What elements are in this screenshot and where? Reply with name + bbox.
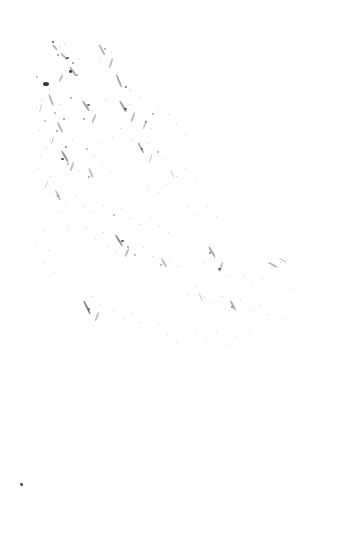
ink-speck [236, 336, 237, 337]
ink-speck [110, 171, 111, 172]
ink-speck [99, 304, 100, 305]
ink-speck [68, 226, 69, 227]
ink-speck [106, 300, 107, 301]
ink-speck [105, 99, 106, 100]
ink-speck [115, 252, 116, 253]
ink-speck [78, 59, 79, 60]
ink-stroke-fragment [268, 262, 278, 268]
ink-speck [41, 100, 42, 101]
ink-speck [150, 217, 151, 218]
ink-speck [69, 70, 72, 73]
ink-stroke-fragment [82, 100, 90, 111]
ink-speck [56, 130, 58, 132]
ink-speck [125, 86, 127, 88]
ink-speck [50, 220, 51, 221]
ink-speck [160, 264, 162, 266]
residual-ink-layer [0, 0, 353, 541]
ink-stroke-fragment [124, 248, 129, 257]
ink-speck [216, 216, 217, 217]
ink-stroke-fragment [279, 257, 287, 262]
ink-speck [121, 208, 122, 209]
ink-speck [176, 176, 177, 177]
ink-speck [310, 286, 311, 287]
ink-speck [65, 146, 67, 148]
ink-stroke-fragment [88, 168, 93, 178]
ink-speck [88, 308, 90, 310]
ink-stroke-fragment [115, 74, 122, 88]
ink-speck [206, 340, 207, 341]
ink-speck [70, 97, 72, 99]
ink-speck [52, 41, 54, 43]
ink-speck [92, 110, 93, 111]
ink-stroke-fragment [83, 300, 91, 314]
ink-stroke-fragment [94, 312, 99, 321]
ink-speck [157, 151, 159, 153]
ink-speck [76, 74, 78, 76]
ink-speck [67, 163, 69, 165]
ink-speck [64, 43, 65, 44]
ink-speck [218, 268, 221, 270]
ink-speck [159, 226, 160, 227]
ink-speck [168, 232, 169, 233]
ink-speck [78, 170, 79, 171]
ink-stroke-fragment [143, 120, 147, 129]
ink-speck [72, 139, 73, 140]
ink-speck [44, 230, 45, 231]
ink-speck [127, 246, 129, 248]
ink-speck [207, 206, 208, 207]
ink-speck [49, 141, 50, 142]
ink-speck [93, 212, 94, 213]
ink-speck [43, 188, 44, 189]
ink-speck [240, 300, 241, 301]
ink-speck [38, 168, 39, 169]
ink-speck [75, 196, 76, 197]
ink-speck [206, 170, 207, 171]
ink-speck [92, 296, 93, 297]
ink-speck [139, 97, 140, 98]
ink-speck [186, 134, 187, 135]
ink-stroke-fragment [161, 258, 167, 268]
ink-speck [148, 186, 149, 187]
ink-stroke-fragment [57, 122, 63, 133]
ink-speck [196, 330, 197, 331]
ink-speck [63, 118, 65, 120]
ink-speck [226, 344, 227, 345]
ink-stroke-fragment [91, 114, 96, 123]
ink-speck [158, 324, 159, 325]
ink-speck [43, 82, 49, 86]
ink-speck [140, 322, 141, 323]
ink-speck [214, 258, 215, 259]
ink-stroke-fragment [137, 142, 144, 153]
ink-speck [216, 332, 217, 333]
ink-speck [39, 130, 40, 131]
ink-speck [152, 113, 154, 115]
ink-speck [57, 195, 59, 197]
ink-stroke-fragment [119, 100, 127, 112]
ink-speck [83, 118, 85, 120]
ink-speck [185, 168, 186, 169]
ink-speck [158, 192, 159, 193]
ink-speck [88, 176, 90, 178]
ink-speck [176, 342, 177, 343]
ink-speck [259, 304, 260, 305]
scanned-page [0, 0, 353, 541]
ink-speck [169, 258, 170, 259]
ink-speck [121, 240, 124, 242]
scan-surface [0, 0, 353, 541]
ink-speck [20, 483, 23, 486]
ink-speck [226, 276, 227, 277]
ink-stroke-fragment [108, 58, 113, 68]
ink-stroke-fragment [115, 235, 123, 247]
ink-speck [268, 314, 269, 315]
ink-speck [124, 108, 127, 110]
ink-stroke-fragment [58, 74, 63, 82]
ink-speck [94, 155, 95, 156]
ink-stroke-fragment [198, 292, 203, 301]
ink-speck [262, 278, 263, 279]
ink-speck [101, 165, 102, 166]
ink-speck [44, 262, 45, 263]
ink-speck [158, 106, 159, 107]
ink-speck [87, 104, 90, 106]
ink-speck [168, 114, 169, 115]
ink-speck [234, 268, 235, 269]
